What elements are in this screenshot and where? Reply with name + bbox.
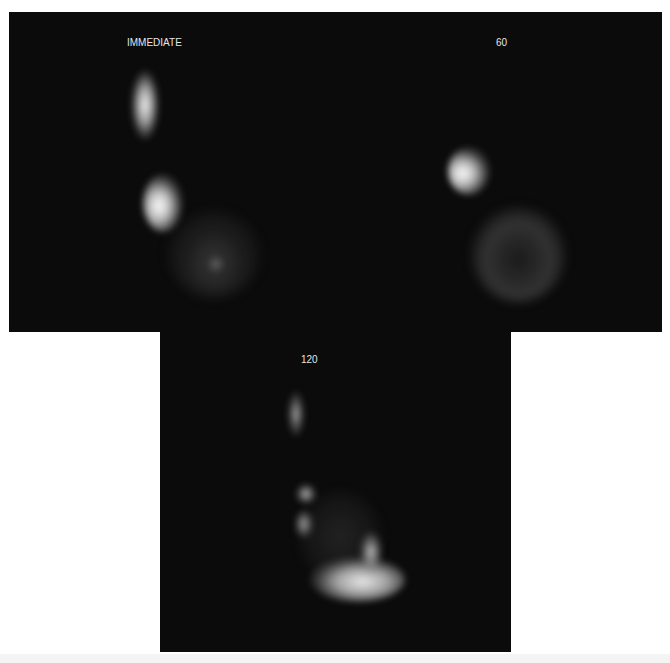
scan-image-120: 120 (160, 332, 511, 652)
scan-image-60: 60 (336, 12, 662, 332)
scan-panel-top: IMMEDIATE 60 (9, 12, 662, 332)
panel-label-60: 60 (496, 37, 507, 48)
uptake-faint-spot (209, 257, 223, 271)
page-bottom-strip (0, 654, 670, 663)
uptake-focus-bottom-cluster (310, 557, 405, 602)
uptake-faint-ring (471, 207, 566, 302)
uptake-focus-top (288, 392, 304, 436)
panel-label-120: 120 (301, 354, 318, 365)
uptake-focus-middle (143, 174, 183, 232)
uptake-focus-bright (448, 147, 490, 195)
scan-panel-bottom: 120 (160, 332, 511, 652)
uptake-faint-lower (169, 212, 259, 297)
scan-image-immediate: IMMEDIATE (9, 12, 335, 332)
panel-label-immediate: IMMEDIATE (127, 37, 182, 48)
uptake-focus-right-arm (360, 532, 382, 572)
uptake-focus-upper (131, 70, 159, 140)
uptake-focus-mid-1 (296, 484, 316, 504)
